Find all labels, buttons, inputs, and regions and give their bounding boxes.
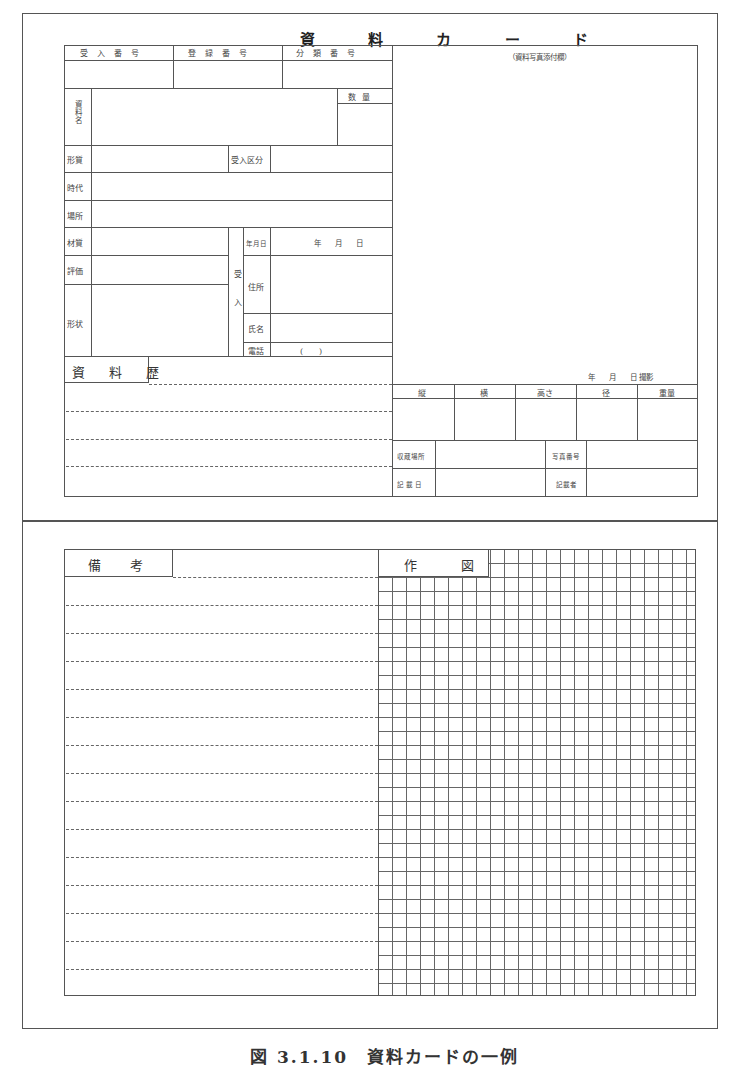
acceptance-group-label: 受入 <box>231 270 241 326</box>
form-quality-field[interactable] <box>92 146 227 171</box>
figure-caption: 図 3.1.10 資料カードの一例 <box>250 1043 519 1068</box>
photo-number-field[interactable] <box>587 441 697 467</box>
form-quality-label: 形質 <box>67 154 83 165</box>
period-field[interactable] <box>92 173 391 199</box>
phone-field[interactable] <box>271 343 391 355</box>
storage-place-field[interactable] <box>436 441 544 467</box>
photo-attach-area[interactable] <box>393 62 696 382</box>
dim-height-field[interactable] <box>393 399 453 439</box>
evaluation-field[interactable] <box>92 256 227 283</box>
section-divider <box>22 520 718 522</box>
registration-number-field[interactable] <box>174 61 281 87</box>
classification-number-label: 分類番号 <box>296 47 364 58</box>
dim-weight-label: 重量 <box>659 387 675 398</box>
entry-date-label: 記載日 <box>397 479 424 489</box>
quantity-label: 数量 <box>348 91 376 102</box>
dim-diameter-label: 径 <box>602 387 610 398</box>
remarks-field[interactable] <box>65 578 378 995</box>
dim-height-label: 縦 <box>418 387 426 398</box>
material-name-label: 資料名 <box>72 100 82 124</box>
name-field[interactable] <box>271 314 391 341</box>
dim-depth-label: 高さ <box>537 387 553 398</box>
accession-number-field[interactable] <box>65 61 172 87</box>
col-line <box>228 145 229 172</box>
date-value: 年 月 日 <box>314 237 363 248</box>
material-name-field[interactable] <box>92 89 336 144</box>
shape-field[interactable] <box>92 285 227 355</box>
storage-col-line <box>545 440 546 496</box>
entry-date-field[interactable] <box>436 469 544 495</box>
quantity-field[interactable] <box>338 104 391 144</box>
address-label: 住所 <box>248 281 264 292</box>
history-field[interactable] <box>65 384 391 495</box>
acceptance-col-line-2 <box>243 227 244 356</box>
history-label: 資 料 歴 <box>72 362 169 381</box>
drawing-grid[interactable] <box>378 549 696 996</box>
drawing-label: 作 図 <box>404 555 480 574</box>
photo-shot-date: 年 月 日 撮影 <box>588 371 653 382</box>
evaluation-label: 評価 <box>67 265 83 276</box>
dim-weight-field[interactable] <box>638 399 697 439</box>
shape-label: 形状 <box>67 318 83 329</box>
dim-depth-field[interactable] <box>516 399 575 439</box>
material-field[interactable] <box>92 228 227 254</box>
registration-number-label: 登録番号 <box>188 47 256 58</box>
remarks-label: 備 考 <box>88 555 151 574</box>
place-label: 場所 <box>67 210 83 221</box>
photo-number-label: 写真番号 <box>552 451 580 461</box>
dim-width-field[interactable] <box>455 399 514 439</box>
address-field[interactable] <box>271 256 391 313</box>
acceptance-category-field[interactable] <box>271 146 391 171</box>
acceptance-col-line-1 <box>228 227 229 356</box>
accession-number-label: 受入番号 <box>80 47 148 58</box>
storage-place-label: 収蔵場所 <box>397 451 425 461</box>
phone-label: 電話 <box>248 345 264 356</box>
dim-diameter-field[interactable] <box>577 399 636 439</box>
name-label: 氏名 <box>248 323 264 334</box>
recorder-label: 記載者 <box>556 479 577 489</box>
material-label: 材質 <box>67 237 83 248</box>
recorder-field[interactable] <box>587 469 697 495</box>
dim-width-label: 横 <box>480 387 488 398</box>
photo-attach-label: （資料写真添付欄） <box>508 51 571 62</box>
dims-top-line <box>392 384 698 385</box>
acceptance-category-label: 受入区分 <box>231 154 263 165</box>
place-field[interactable] <box>92 201 391 227</box>
period-label: 時代 <box>67 182 83 193</box>
classification-number-field[interactable] <box>283 61 391 87</box>
date-label: 年月日 <box>246 238 267 248</box>
